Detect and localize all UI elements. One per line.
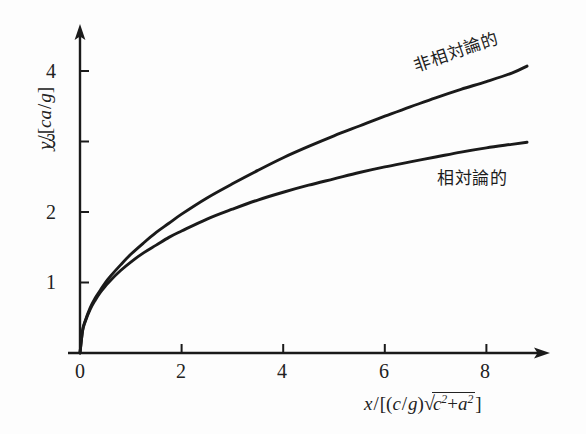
x-tick-label-4: 4	[266, 360, 298, 383]
tick-marks	[80, 71, 486, 353]
x-axis-g: g	[408, 393, 418, 414]
data-curves	[80, 66, 527, 353]
x-axis-title: x/[(c/g)√c2+a2]	[364, 392, 482, 415]
x-axis-inner-slash: /	[401, 393, 408, 414]
x-axis-a-base: a	[458, 393, 468, 414]
x-axis-close-bracket: ]	[475, 393, 481, 414]
x-axis-a-exponent: 2	[467, 393, 473, 406]
y-tick-label-2: 2	[38, 201, 64, 224]
x-axis-c: c	[392, 393, 400, 414]
x-axis-plus: +	[447, 393, 458, 414]
x-tick-label-8: 8	[469, 360, 501, 383]
y-axis-inner-slash: /	[34, 103, 55, 110]
x-axis-close-paren: )	[418, 393, 424, 414]
x-tick-label-0: 0	[64, 360, 96, 383]
y-axis-c: c	[34, 120, 55, 128]
x-axis-slash: /	[372, 393, 379, 414]
y-axis-title: y/[ca/g]	[34, 87, 56, 150]
y-axis-var: y	[34, 142, 55, 150]
figure-canvas: 0 2 4 6 8 1 2 3 4 y/[ca/g] x/[(c/g)√c2+a…	[0, 0, 586, 434]
y-axis-slash: /	[34, 134, 55, 141]
y-axis-open-bracket: [	[34, 128, 55, 134]
axis-group	[68, 24, 550, 358]
y-axis-a: a	[34, 110, 55, 120]
y-tick-label-4: 4	[38, 60, 64, 83]
x-tick-label-6: 6	[368, 360, 400, 383]
x-tick-label-2: 2	[165, 360, 197, 383]
y-axis-close-bracket: ]	[34, 87, 55, 93]
x-axis-radicand: c2+a2	[432, 392, 475, 414]
curve-series-0	[80, 66, 527, 353]
y-axis-g: g	[34, 93, 55, 103]
curve-label-relativistic: 相対論的	[437, 164, 507, 189]
y-tick-label-1: 1	[38, 271, 64, 294]
